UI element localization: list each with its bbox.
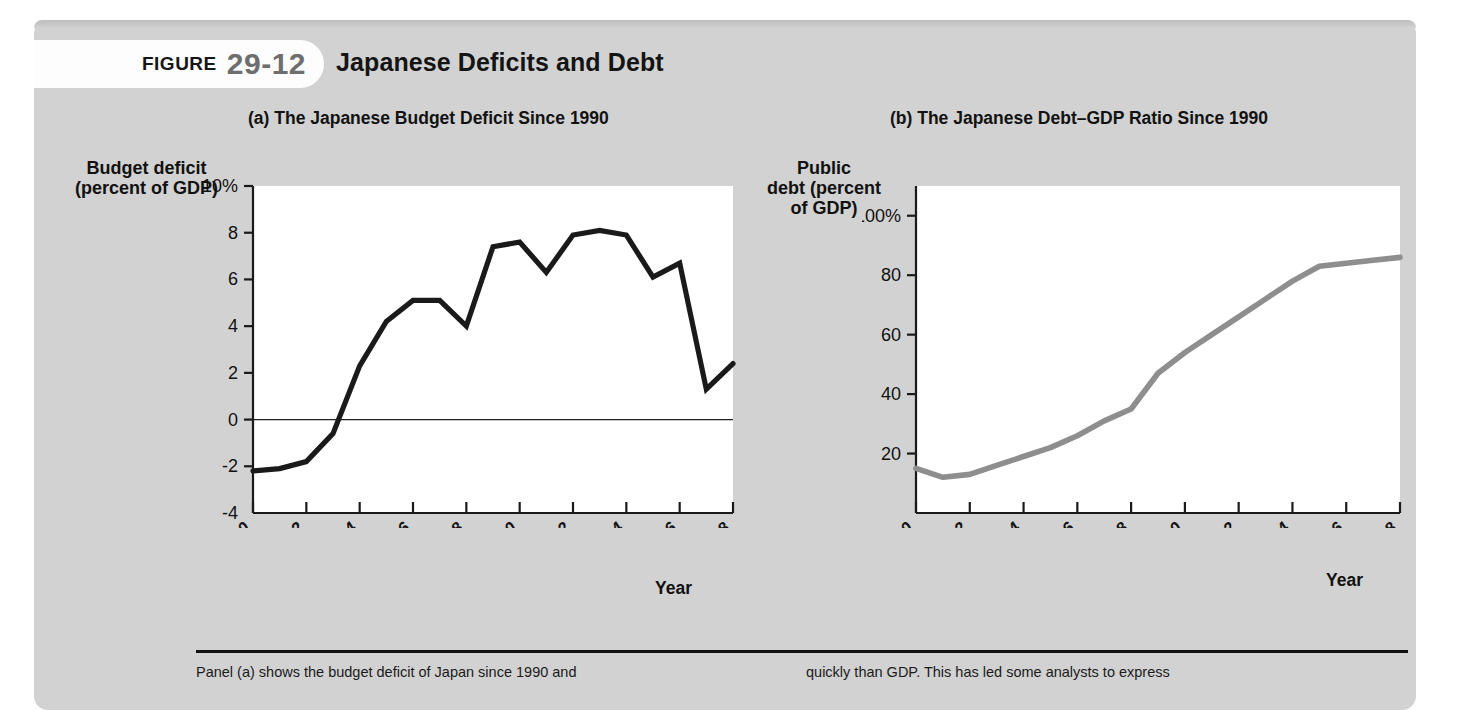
caption-left-column: Panel (a) shows the budget deficit of Ja… (196, 662, 576, 683)
y-tick-label: -2 (222, 456, 238, 476)
panel-b-y-axis-label-line1: Public (738, 158, 910, 178)
x-tick-label: 1996 (374, 518, 415, 528)
x-tick-label: 2006 (640, 518, 681, 528)
figure-title: Japanese Deficits and Debt (336, 48, 664, 77)
figure-badge-word: FIGURE (142, 53, 217, 75)
x-tick-label: 1992 (267, 518, 308, 528)
panel-b-svg: 100%806040201990199219941996199820002002… (862, 178, 1410, 528)
figure-badge-number: 29-12 (227, 49, 306, 79)
x-tick-label: 2000 (1145, 518, 1186, 528)
y-tick-label: 8 (228, 223, 238, 243)
x-tick-label: 1994 (320, 518, 361, 528)
plot-background (253, 186, 733, 513)
panel-a-title: (a) The Japanese Budget Deficit Since 19… (248, 108, 609, 129)
panel-a-y-axis-label-line1: Budget deficit (44, 158, 249, 178)
caption-divider (196, 650, 1408, 653)
y-tick-label: 100% (862, 206, 901, 226)
y-tick-label: 20 (881, 444, 901, 464)
y-tick-label: 60 (881, 325, 901, 345)
panel-a-x-axis-label: Year (655, 578, 692, 599)
y-tick-label: -4 (222, 503, 238, 523)
panel-b-plot: 100%806040201990199219941996199820002002… (862, 178, 1410, 528)
y-tick-label: 4 (228, 316, 238, 336)
y-tick-label: 6 (228, 269, 238, 289)
x-tick-label: 1998 (427, 518, 468, 528)
y-tick-label: 2 (228, 363, 238, 383)
x-tick-label: 1992 (930, 518, 971, 528)
x-tick-label: 1994 (984, 518, 1025, 528)
panel-a-svg: 10%86420-2-41990199219941996199820002002… (198, 178, 743, 528)
y-tick-label: 10% (202, 178, 238, 196)
x-tick-label: 1990 (877, 518, 918, 528)
caption-right-column: quickly than GDP. This has led some anal… (806, 662, 1170, 683)
figure-card-top-shade (34, 20, 1416, 28)
x-tick-label: 2008 (693, 518, 734, 528)
x-tick-label: 2008 (1360, 518, 1401, 528)
panel-b-title: (b) The Japanese Debt–GDP Ratio Since 19… (890, 108, 1268, 129)
x-tick-label: 1996 (1038, 518, 1079, 528)
panel-b-x-axis-label: Year (1326, 570, 1363, 591)
x-tick-label: 2004 (586, 518, 627, 528)
y-tick-label: 40 (881, 384, 901, 404)
panel-a-plot: 10%86420-2-41990199219941996199820002002… (198, 178, 743, 528)
x-tick-label: 2004 (1252, 518, 1293, 528)
plot-background (916, 186, 1400, 513)
x-tick-label: 2002 (533, 518, 574, 528)
x-tick-label: 2002 (1199, 518, 1240, 528)
x-tick-label: 2000 (480, 518, 521, 528)
x-tick-label: 1998 (1092, 518, 1133, 528)
y-tick-label: 0 (228, 410, 238, 430)
y-tick-label: 80 (881, 265, 901, 285)
figure-badge: FIGURE 29-12 (34, 40, 324, 88)
x-tick-label: 2006 (1306, 518, 1347, 528)
